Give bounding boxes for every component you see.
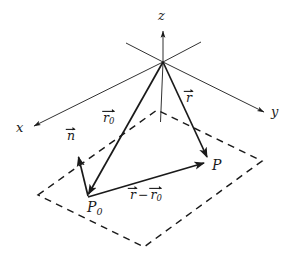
- vector-accent-icon: [183, 88, 194, 93]
- vector-n-symbol: n: [67, 130, 75, 143]
- vector-r-accented: r: [186, 88, 192, 105]
- axis-x-negative: [163, 42, 201, 62]
- vector-r-arrow: [163, 62, 207, 157]
- axis-y-negative: [126, 43, 163, 62]
- point-p0-subscript: 0: [96, 206, 102, 217]
- vector-r0-accented: r0: [103, 108, 114, 125]
- axis-y: [163, 62, 264, 112]
- vector-label-r: r: [186, 88, 192, 105]
- vector-difference-subtrahend-subscript: 0: [156, 193, 161, 203]
- figure-canvas: [0, 0, 297, 266]
- point-label-p0: P0: [87, 200, 102, 214]
- vector-difference-minuend: r: [130, 189, 136, 202]
- vector-label-n: n: [67, 126, 75, 143]
- vector-label-r0: r0: [103, 108, 114, 125]
- axis-label-x: x: [16, 121, 23, 134]
- vector-r0-subscript: 0: [109, 116, 114, 126]
- axis-label-z: z: [158, 9, 165, 22]
- axis-x: [34, 62, 163, 126]
- vector-accent-icon: [101, 108, 115, 113]
- axis-label-y: y: [271, 105, 278, 118]
- point-p0-symbol: P: [87, 199, 96, 215]
- vector-accent-icon: [149, 185, 163, 190]
- vector-accent-icon: [127, 185, 138, 190]
- vector-difference-subtrahend-accented: r0: [150, 185, 161, 202]
- point-label-p: P: [212, 158, 221, 172]
- vector-accent-icon: [65, 126, 76, 131]
- vector-r0-arrow: [89, 62, 164, 194]
- vector-label-r-minus-r0: r − r0: [130, 185, 162, 202]
- vector-difference-minuend-accented: r: [130, 185, 136, 202]
- vector-plane-figure: x y z P P0 r r0 n: [0, 0, 297, 266]
- vector-n-accented: n: [67, 126, 75, 143]
- vector-r-symbol: r: [186, 92, 192, 105]
